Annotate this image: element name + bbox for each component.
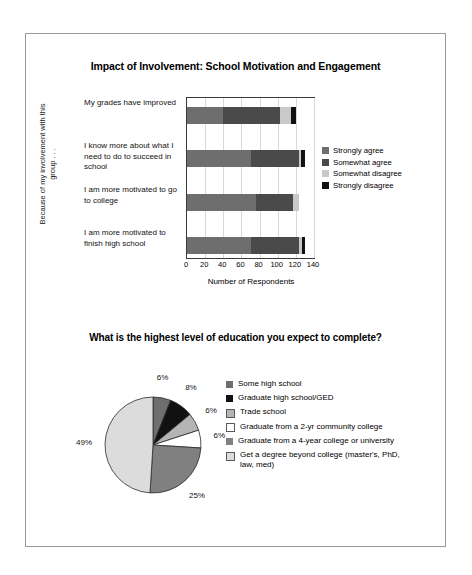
category-label-grades: My grades have improved bbox=[84, 98, 180, 109]
pie-svg bbox=[104, 396, 204, 496]
x-axis-tick-label: 140 bbox=[304, 260, 322, 269]
bar-chart-x-axis-ticks: 020406080100120140 bbox=[186, 260, 315, 272]
category-label-college: I am more motivated to go to college bbox=[84, 185, 180, 206]
x-axis-tick-label: 60 bbox=[231, 260, 249, 269]
pie-slice-value-label: 49% bbox=[76, 438, 92, 447]
bar-segment bbox=[301, 150, 305, 167]
bar-segment bbox=[187, 237, 251, 254]
legend-item: Graduate from a 2-yr community college bbox=[226, 422, 426, 433]
legend-item-label: Strongly agree bbox=[333, 146, 384, 155]
pie-slice-value-label: 25% bbox=[189, 491, 205, 500]
x-axis-tick-label: 120 bbox=[286, 260, 304, 269]
bar-chart-title: Impact of Involvement: School Motivation… bbox=[26, 60, 445, 72]
legend-item-label: Get a degree beyond college (master's, P… bbox=[240, 450, 408, 470]
legend-swatch-icon bbox=[226, 452, 235, 461]
bar-chart-plot-area bbox=[186, 97, 315, 259]
legend-swatch-icon bbox=[226, 395, 233, 402]
legend-item-label: Somewhat agree bbox=[333, 158, 392, 167]
x-axis-tick-label: 40 bbox=[213, 260, 231, 269]
legend-swatch-icon bbox=[322, 147, 329, 154]
bar-segment bbox=[251, 150, 299, 167]
legend-item-label: Graduate high school/GED bbox=[238, 393, 334, 403]
pie-slice-value-label: 6% bbox=[157, 373, 169, 382]
legend-item: Strongly disagree bbox=[322, 181, 402, 190]
gridline bbox=[314, 98, 315, 258]
legend-swatch-icon bbox=[226, 409, 235, 418]
pie-chart-graphic: 6%8%6%6%25%49% bbox=[104, 396, 204, 496]
bar-segment bbox=[256, 194, 293, 211]
bar-chart-x-axis-title: Number of Respondents bbox=[156, 277, 346, 286]
bar-stack bbox=[187, 150, 305, 167]
legend-swatch-icon bbox=[226, 438, 233, 445]
legend-item-label: Trade school bbox=[240, 407, 286, 417]
legend-item-label: Somewhat disagree bbox=[333, 169, 402, 178]
legend-item-label: Graduate from a 2-yr community college bbox=[240, 422, 383, 432]
gridline bbox=[296, 98, 297, 258]
legend-item: Strongly agree bbox=[322, 146, 402, 155]
bar-segment bbox=[280, 107, 292, 124]
pie-slice-value-label: 8% bbox=[185, 383, 197, 392]
document-frame: Impact of Involvement: School Motivation… bbox=[25, 33, 446, 547]
x-axis-tick-label: 0 bbox=[177, 260, 195, 269]
bar-stack bbox=[187, 107, 296, 124]
legend-item: Trade school bbox=[226, 407, 426, 418]
x-axis-tick-label: 80 bbox=[250, 260, 268, 269]
legend-item: Some high school bbox=[226, 379, 426, 389]
bar-chart-legend: Strongly agreeSomewhat agreeSomewhat dis… bbox=[322, 146, 402, 192]
legend-item-label: Graduate from a 4-year college or univer… bbox=[238, 436, 394, 446]
pie-chart-legend: Some high schoolGraduate high school/GED… bbox=[226, 379, 426, 474]
category-label-finish-hs: I am more motivated to finish high schoo… bbox=[84, 228, 180, 249]
pie-slice-value-label: 6% bbox=[205, 406, 217, 415]
bar-segment bbox=[291, 107, 296, 124]
legend-item: Get a degree beyond college (master's, P… bbox=[226, 450, 426, 470]
pie-chart-title: What is the highest level of education y… bbox=[26, 332, 445, 343]
category-label-know-more: I know more about what I need to do to s… bbox=[84, 141, 180, 173]
bar-chart-y-axis-title: Because of my involvement with this grou… bbox=[38, 99, 58, 229]
legend-swatch-icon bbox=[322, 170, 329, 177]
legend-swatch-icon bbox=[322, 182, 329, 189]
bar-stack bbox=[187, 194, 299, 211]
bar-segment bbox=[293, 194, 298, 211]
legend-item: Somewhat agree bbox=[322, 158, 402, 167]
bar-segment bbox=[302, 237, 305, 254]
bar-segment bbox=[187, 150, 251, 167]
pie-slice bbox=[150, 445, 201, 493]
legend-item-label: Strongly disagree bbox=[333, 181, 394, 190]
bar-segment bbox=[223, 107, 279, 124]
page-canvas: Impact of Involvement: School Motivation… bbox=[0, 0, 472, 575]
bar-chart-category-labels: My grades have improved I know more abou… bbox=[84, 98, 180, 278]
pie-slice bbox=[105, 397, 153, 493]
bar-segment bbox=[187, 194, 256, 211]
legend-item-label: Some high school bbox=[238, 379, 302, 389]
pie-slice-value-label: 6% bbox=[213, 431, 225, 440]
x-axis-tick-label: 20 bbox=[195, 260, 213, 269]
legend-item: Graduate high school/GED bbox=[226, 393, 426, 403]
bar-segment bbox=[251, 237, 300, 254]
bar-segment bbox=[187, 107, 223, 124]
legend-swatch-icon bbox=[322, 159, 329, 166]
bar-stack bbox=[187, 237, 305, 254]
legend-swatch-icon bbox=[226, 381, 233, 388]
x-axis-tick-label: 100 bbox=[268, 260, 286, 269]
legend-swatch-icon bbox=[226, 423, 235, 432]
legend-item: Graduate from a 4-year college or univer… bbox=[226, 436, 426, 446]
legend-item: Somewhat disagree bbox=[322, 169, 402, 178]
